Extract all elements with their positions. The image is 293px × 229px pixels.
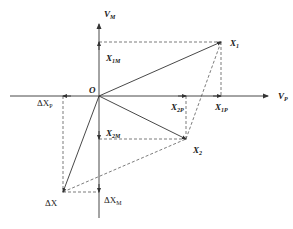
x1-label: X1 <box>229 38 239 49</box>
vm-axis-label: VM <box>104 9 116 20</box>
delta-xm-label: ΔXM <box>104 195 122 206</box>
delta-x-label: ΔX <box>45 198 58 208</box>
vector-diagram: O VM VP X1 X1M X1P X2P X2M X2 ΔXP ΔX ΔXM <box>0 0 293 229</box>
x1m-label: X1M <box>105 53 121 64</box>
origin-label: O <box>89 85 96 95</box>
x2m-label: X2M <box>105 128 121 139</box>
vector-x1 <box>99 42 221 96</box>
x1p-label: X1P <box>214 102 228 113</box>
x2p-label: X2P <box>170 102 184 113</box>
x2-label: X2 <box>192 145 202 156</box>
delta-xp-label: ΔXP <box>37 98 53 109</box>
vp-axis-label: VP <box>278 91 288 102</box>
vector-delta-x <box>63 96 99 192</box>
